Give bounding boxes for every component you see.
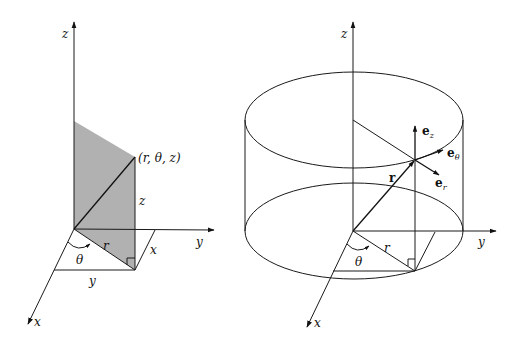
- etheta-label: eθ: [447, 146, 460, 162]
- ez-subscript: z: [429, 131, 435, 140]
- z-axis-label: z: [61, 27, 69, 41]
- position-vector-label: r: [389, 171, 396, 185]
- x-leg-label: x: [150, 243, 157, 257]
- y-leg-label: y: [88, 274, 96, 288]
- theta-arc: [347, 244, 369, 250]
- radius-label: r: [384, 241, 391, 255]
- y-axis-label: y: [195, 235, 203, 249]
- x-axis-label: x: [34, 315, 41, 329]
- point-label: (r, θ, z): [138, 151, 181, 165]
- left-panel: z y x (r, θ, z) z r θ x y: [28, 22, 214, 329]
- cylinder-top-ellipse: [245, 72, 463, 168]
- height-label: z: [138, 194, 146, 208]
- etheta-subscript: θ: [455, 153, 460, 162]
- z-axis-label: z: [340, 27, 348, 41]
- top-radius-line: [353, 120, 415, 160]
- x-axis-label: x: [314, 316, 321, 330]
- right-angle-mark: [408, 259, 415, 266]
- x-leg-line: [415, 232, 435, 271]
- cylindrical-coordinates-figure: z y x (r, θ, z) z r θ x y: [0, 0, 520, 344]
- theta-arc: [68, 242, 90, 248]
- er-subscript: r: [443, 183, 448, 192]
- y-axis-label: y: [477, 235, 485, 249]
- position-vector: [353, 161, 414, 231]
- er-label: er: [435, 176, 448, 192]
- theta-label: θ: [355, 255, 363, 269]
- theta-label: θ: [76, 253, 84, 267]
- right-panel: z y x ez eθ er: [245, 22, 496, 330]
- unit-vector-etheta: [415, 150, 443, 160]
- ez-label: ez: [422, 124, 435, 140]
- x-axis: [28, 229, 74, 324]
- unit-vector-er: [415, 160, 439, 175]
